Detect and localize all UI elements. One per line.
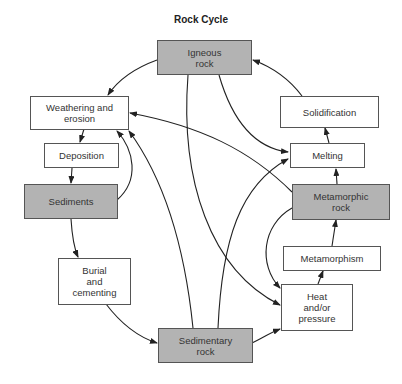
arrow-heat-to-metamorphism bbox=[318, 271, 323, 284]
arrow-metamorphic-to-weathering bbox=[130, 113, 292, 192]
arrow-weathering-to-deposition bbox=[80, 129, 84, 142]
arrow-sediments-to-burial bbox=[71, 219, 78, 257]
node-sediments: Sediments bbox=[24, 184, 118, 219]
node-sedimentary-rock: Sedimentary rock bbox=[158, 328, 253, 363]
node-heat-and-or-pressure: Heat and/or pressure bbox=[281, 284, 353, 331]
arrow-sediments-to-weathering bbox=[117, 131, 132, 200]
arrow-metamorphism-to-metamorphic bbox=[332, 220, 336, 246]
arrow-igneous-to-weathering bbox=[108, 60, 157, 95]
node-metamorphism: Metamorphism bbox=[283, 246, 381, 271]
node-solidification: Solidification bbox=[280, 96, 379, 128]
arrow-sedimentary-to-weathering bbox=[129, 131, 193, 328]
arrow-burial-to-sedimentary bbox=[106, 304, 157, 343]
node-metamorphic-rock: Metamorphic rock bbox=[292, 184, 390, 220]
arrow-melting-to-solidification bbox=[325, 128, 329, 143]
node-deposition: Deposition bbox=[44, 143, 119, 168]
arrow-sedimentary-to-heat bbox=[252, 329, 280, 343]
arrow-igneous-to-heat bbox=[187, 75, 280, 305]
node-igneous-rock: Igneous rock bbox=[157, 40, 252, 75]
node-melting: Melting bbox=[290, 143, 365, 168]
arrow-igneous-to-melting bbox=[219, 75, 288, 152]
arrow-deposition-to-sediments bbox=[71, 168, 72, 183]
arrow-sedimentary-to-melting bbox=[218, 159, 288, 328]
arrow-solidification-to-igneous bbox=[253, 60, 302, 96]
arrow-metamorphic-to-melting bbox=[336, 169, 337, 184]
node-burial-and-cementing: Burial and cementing bbox=[58, 258, 131, 305]
node-weathering-and-erosion: Weathering and erosion bbox=[30, 96, 129, 130]
